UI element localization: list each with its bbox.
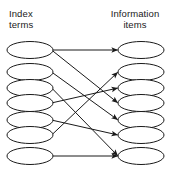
index-term-node-l1[interactable] bbox=[7, 42, 53, 59]
information-item-node-r4[interactable] bbox=[118, 95, 164, 112]
information-item-node-r6[interactable] bbox=[118, 127, 164, 144]
index-term-node-l3[interactable] bbox=[7, 80, 53, 97]
edge-layer bbox=[53, 50, 118, 156]
index-term-node-l4[interactable] bbox=[7, 95, 53, 112]
index-term-node-l5[interactable] bbox=[7, 112, 53, 129]
graph-edge bbox=[53, 73, 118, 120]
diagram-canvas: Index terms Information items bbox=[0, 0, 170, 170]
information-item-node-r1[interactable] bbox=[118, 42, 164, 59]
information-item-node-r7[interactable] bbox=[118, 148, 164, 165]
information-item-node-r5[interactable] bbox=[118, 112, 164, 129]
graph-edge bbox=[53, 72, 118, 134]
information-item-node-r3[interactable] bbox=[118, 80, 164, 97]
index-term-node-l6[interactable] bbox=[7, 127, 53, 144]
index-term-node-l2[interactable] bbox=[7, 64, 53, 81]
index-term-node-l7[interactable] bbox=[7, 148, 53, 165]
bipartite-graph-svg bbox=[0, 0, 170, 170]
information-item-node-r2[interactable] bbox=[118, 64, 164, 81]
